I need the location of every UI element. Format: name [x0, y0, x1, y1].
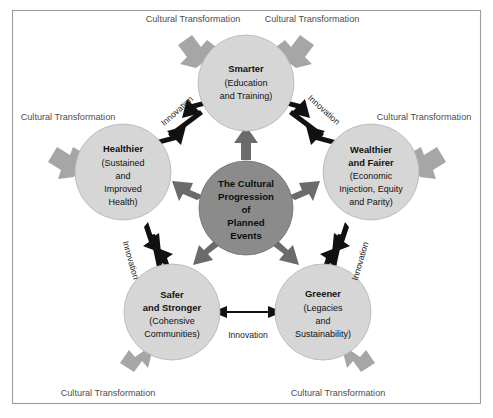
node-title-smarter: Smarter — [228, 63, 264, 74]
node-sub-healthier-line2: and — [115, 171, 130, 181]
center-title-line4: Planned — [227, 217, 264, 228]
outer-label-bottom-right: Cultural Transformation — [291, 388, 386, 398]
outer-label-bottom-left: Cultural Transformation — [61, 388, 156, 398]
node-sub-safer-line2: Communities) — [144, 329, 200, 339]
center-title-line1: The Cultural — [218, 178, 274, 189]
node-sub-greener-line3: Sustainability) — [295, 329, 351, 339]
node-sub-healthier-line3: Improved — [104, 184, 142, 194]
node-sub-greener-line1: (Legacies — [303, 303, 343, 313]
node-title-wealthier-line2: and Fairer — [348, 157, 394, 168]
node-title-safer-line2: and Stronger — [143, 302, 202, 313]
outer-label-top-left: Cultural Transformation — [146, 14, 241, 24]
node-sub-wealthier-line3: and Parity) — [349, 197, 393, 207]
center-title-line2: Progression — [218, 191, 274, 202]
outer-label-top-right: Cultural Transformation — [265, 14, 360, 24]
node-sub-smarter-line2: and Training) — [220, 91, 273, 101]
center-title-line3: of — [241, 204, 251, 215]
diagram-canvas: Smarter (Education and Training) Wealthi… — [0, 0, 493, 418]
node-sub-greener-line2: and — [315, 316, 330, 326]
node-sub-wealthier-line1: (Economic — [350, 171, 393, 181]
center-title-line5: Events — [230, 230, 261, 241]
outer-label-left: Cultural Transformation — [21, 112, 116, 122]
node-title-safer-line1: Safer — [160, 289, 184, 300]
node-sub-healthier-line1: (Sustained — [101, 158, 144, 168]
node-sub-healthier-line4: Health) — [108, 197, 137, 207]
node-sub-safer-line1: (Cohensive — [149, 316, 195, 326]
innovation-label-greener-safer: Innovation — [228, 330, 268, 340]
node-title-wealthier-line1: Wealthier — [350, 144, 392, 155]
node-sub-smarter-line1: (Education — [224, 78, 267, 88]
node-title-healthier: Healthier — [103, 143, 143, 154]
cultural-progression-diagram: Smarter (Education and Training) Wealthi… — [0, 0, 493, 418]
node-title-greener: Greener — [305, 288, 341, 299]
node-sub-wealthier-line2: Injection, Equity — [339, 184, 403, 194]
outer-label-right: Cultural Transformation — [377, 112, 472, 122]
